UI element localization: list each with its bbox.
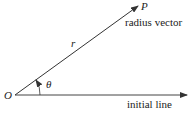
point-label: P: [141, 1, 148, 12]
angle-label: θ: [46, 79, 51, 90]
angle-arc: [36, 80, 40, 95]
radius-vector-label: radius vector: [125, 17, 182, 28]
radius-vector-line: [15, 6, 138, 95]
polar-coordinates-diagram: O P radius vector r θ initial line: [0, 0, 191, 120]
origin-label: O: [4, 90, 12, 101]
initial-line-label: initial line: [127, 99, 172, 110]
radius-label: r: [71, 38, 75, 49]
